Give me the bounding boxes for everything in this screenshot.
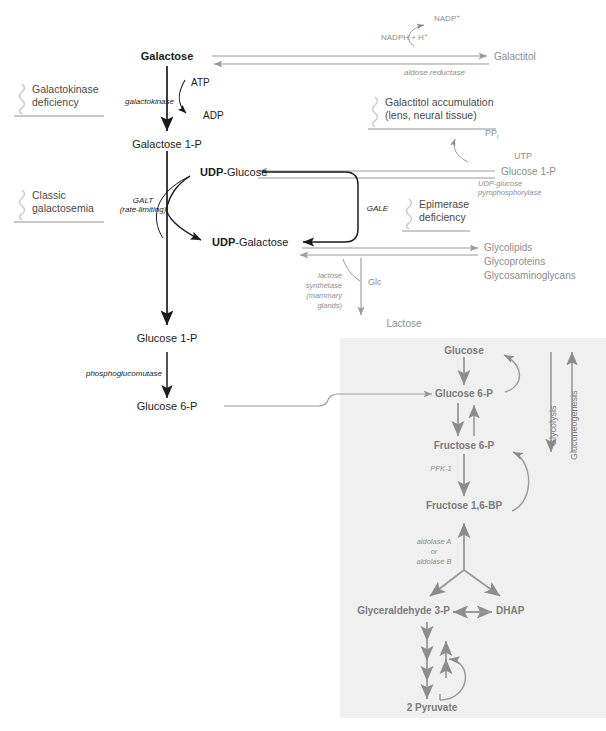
metabolite-lactose: Lactose <box>386 318 421 330</box>
cofactor-adp: ADP <box>203 110 224 122</box>
enzyme-aldose-reductase: aldose reductase <box>404 68 465 77</box>
galactitol-accumulation-line2: (lens, neural tissue) <box>385 109 494 122</box>
cofactor-nadph-h: NADPH + H⁺ <box>381 33 428 42</box>
galactokinase-deficiency-line2: deficiency <box>32 96 99 109</box>
cofactor-utp: UTP <box>514 151 532 162</box>
enzyme-lactose-synthetase: lactose synthetase (mammary glands) <box>306 271 342 312</box>
udp-galactose-prefix: UDP <box>212 236 235 248</box>
label-gluconeogenesis: Gluconeogenesis <box>569 390 579 460</box>
classic-galactosemia-text: Classic galactosemia <box>32 189 94 215</box>
aldolase-line2: or <box>416 547 451 557</box>
metabolite-glucose-1p-left: Glucose 1-P <box>137 332 198 345</box>
epimerase-deficiency-line2: deficiency <box>419 211 469 224</box>
udp-glucose-suffix: -Glucose <box>223 166 267 178</box>
callout-galactokinase-deficiency: Galactokinase deficiency <box>18 83 118 119</box>
galactokinase-deficiency-text: Galactokinase deficiency <box>32 83 99 109</box>
panel-glucose-6p: Glucose 6-P <box>435 388 493 400</box>
enzyme-phosphoglucomutase: phosphoglucomutase <box>86 369 162 378</box>
metabolite-glc: Glc <box>368 277 382 288</box>
galactitol-accumulation-line1: Galactitol accumulation <box>385 96 494 109</box>
udp-pyrophosphorylase-line2: pyrophosphorylase <box>478 189 541 198</box>
label-glycolysis: Glycolysis <box>548 405 558 446</box>
udp-glucose-prefix: UDP <box>200 166 223 178</box>
panel-fructose-6p: Fructose 6-P <box>434 440 495 452</box>
enzyme-aldolase: aldolase A or aldolase B <box>416 537 451 567</box>
product-glycosaminoglycans: Glycosaminoglycans <box>484 269 576 283</box>
galt-note: (rate-limiting) <box>120 205 167 214</box>
enzyme-galactokinase: galactokinase <box>125 97 174 106</box>
enzyme-galt: GALT (rate-limiting) <box>120 196 167 215</box>
panel-dhap: DHAP <box>496 605 524 617</box>
panel-glyceraldehyde-3p: Glyceraldehyde 3-P <box>357 605 450 617</box>
metabolite-udp-galactose: UDP-Galactose <box>212 236 288 249</box>
udp-galactose-suffix: -Galactose <box>235 236 288 248</box>
callout-epimerase-deficiency: Epimerase deficiency <box>405 198 485 234</box>
galactitol-accumulation-text: Galactitol accumulation (lens, neural ti… <box>385 96 494 122</box>
epimerase-deficiency-text: Epimerase deficiency <box>419 198 469 224</box>
aldolase-line1: aldolase A <box>416 537 451 547</box>
aldolase-line3: aldolase B <box>416 557 451 567</box>
enzyme-pfk1: PFK-1 <box>430 465 451 474</box>
lactose-synthetase-line1: lactose <box>306 271 342 281</box>
lactose-synthetase-line3: (mammary <box>306 291 342 301</box>
epimerase-deficiency-line1: Epimerase <box>419 198 469 211</box>
lactose-synthetase-line2: synthetase <box>306 281 342 291</box>
enzyme-udp-glucose-pyrophosphorylase: UDP-glucose pyrophosphorylase <box>478 180 541 198</box>
callout-classic-galactosemia: Classic galactosemia <box>18 189 118 225</box>
galt-name: GALT <box>120 196 167 205</box>
galactokinase-deficiency-line1: Galactokinase <box>32 83 99 96</box>
cofactor-atp: ATP <box>191 77 210 89</box>
enzyme-gale: GALE <box>367 204 388 213</box>
products-list: Glycolipids Glycoproteins Glycosaminogly… <box>484 241 576 284</box>
panel-fructose-16bp: Fructose 1,6-BP <box>426 500 502 512</box>
panel-pyruvate: 2 Pyruvate <box>407 702 458 714</box>
metabolite-galactose: Galactose <box>141 50 194 63</box>
classic-galactosemia-line1: Classic <box>32 189 94 202</box>
cofactor-nadp-plus: NADP⁺ <box>434 14 460 23</box>
lactose-synthetase-line4: glands) <box>306 301 342 311</box>
pathway-diagram: Galactose Galactose 1-P Glucose 1-P Gluc… <box>0 0 606 731</box>
classic-galactosemia-line2: galactosemia <box>32 202 94 215</box>
metabolite-galactitol: Galactitol <box>494 51 536 63</box>
metabolite-glucose-6p-left: Glucose 6-P <box>137 400 198 413</box>
product-glycolipids: Glycolipids <box>484 241 576 255</box>
metabolite-glucose-1p-right: Glucose 1-P <box>501 166 556 178</box>
metabolite-udp-glucose: UDP-Glucose <box>200 166 267 179</box>
panel-glucose: Glucose <box>444 345 483 357</box>
callout-galactitol-accumulation: Galactitol accumulation (lens, neural ti… <box>371 96 501 132</box>
product-glycoproteins: Glycoproteins <box>484 255 576 269</box>
ppi-subscript: i <box>497 133 498 140</box>
metabolite-galactose-1p: Galactose 1-P <box>132 138 202 151</box>
